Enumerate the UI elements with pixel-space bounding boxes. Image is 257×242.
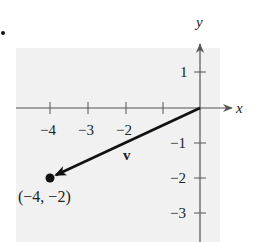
x-tick-label: −3 — [78, 122, 94, 138]
y-tick-label: −2 — [170, 170, 186, 186]
vector-label: v — [123, 147, 131, 163]
bullet-marker — [1, 31, 5, 35]
x-axis-label: x — [235, 100, 243, 116]
point-label: (−4, −2) — [18, 188, 71, 206]
y-axis-label: y — [194, 14, 203, 30]
endpoint-dot — [46, 174, 55, 183]
x-tick-label: −2 — [116, 122, 132, 138]
x-tick-label: −4 — [40, 122, 56, 138]
y-tick-label: 1 — [180, 64, 188, 80]
y-tick-label: −3 — [170, 205, 186, 221]
vector-diagram: x y −4 −3 −2 1 −1 −2 −3 v (−4, −2) — [0, 0, 257, 242]
y-tick-label: −1 — [170, 135, 186, 151]
